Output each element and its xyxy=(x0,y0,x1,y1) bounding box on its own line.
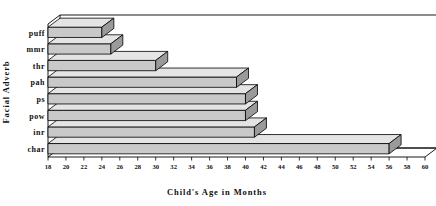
x-tick-label-46: 46 xyxy=(296,163,303,170)
x-tick-label-42: 42 xyxy=(260,163,267,170)
bar-chart-svg: 1820222426283032343638404244464850525456… xyxy=(0,0,436,206)
bar-front-face xyxy=(48,44,111,54)
x-tick-label-28: 28 xyxy=(134,163,141,170)
x-tick-label-22: 22 xyxy=(81,163,88,170)
category-label-ps: ps xyxy=(36,95,45,104)
x-axis-tick-labels: 1820222426283032343638404244464850525456… xyxy=(45,163,429,170)
category-label-pow: pow xyxy=(29,112,45,121)
bar-front-face xyxy=(48,110,245,120)
category-label-pah: pah xyxy=(31,78,45,87)
x-tick-label-34: 34 xyxy=(188,163,195,170)
x-tick-label-20: 20 xyxy=(63,163,70,170)
bar-series xyxy=(48,18,401,154)
x-axis-ticks xyxy=(48,157,425,161)
x-tick-label-60: 60 xyxy=(422,163,429,170)
bar-front-face xyxy=(48,60,156,70)
x-tick-label-38: 38 xyxy=(224,163,231,170)
x-tick-label-44: 44 xyxy=(278,163,285,170)
category-label-char: char xyxy=(27,145,45,154)
x-axis-title: Child's Age in Months xyxy=(167,187,267,197)
x-tick-label-58: 58 xyxy=(404,163,411,170)
x-tick-label-30: 30 xyxy=(152,163,159,170)
x-tick-label-40: 40 xyxy=(242,163,249,170)
category-label-mmr: mmr xyxy=(27,45,45,54)
x-tick-label-54: 54 xyxy=(368,163,375,170)
x-tick-label-48: 48 xyxy=(314,163,321,170)
y-axis-category-labels: charinrpowpspahthrmmrpuff xyxy=(27,29,45,154)
x-tick-label-52: 52 xyxy=(350,163,357,170)
bar-puff xyxy=(48,18,114,37)
x-tick-label-32: 32 xyxy=(170,163,177,170)
x-tick-label-24: 24 xyxy=(99,163,106,170)
chart-container: 1820222426283032343638404244464850525456… xyxy=(0,0,436,206)
x-tick-label-56: 56 xyxy=(386,163,393,170)
bar-front-face xyxy=(48,27,102,37)
bar-front-face xyxy=(48,77,237,87)
x-tick-label-50: 50 xyxy=(332,163,339,170)
x-tick-label-18: 18 xyxy=(45,163,52,170)
x-tick-label-26: 26 xyxy=(117,163,124,170)
y-axis-title: Facial Adverb xyxy=(1,61,11,124)
x-tick-label-36: 36 xyxy=(206,163,213,170)
category-label-puff: puff xyxy=(29,29,45,38)
bar-front-face xyxy=(48,144,389,154)
category-label-inr: inr xyxy=(33,128,45,137)
bar-front-face xyxy=(48,127,254,137)
category-label-thr: thr xyxy=(33,62,45,71)
bar-front-face xyxy=(48,94,245,104)
